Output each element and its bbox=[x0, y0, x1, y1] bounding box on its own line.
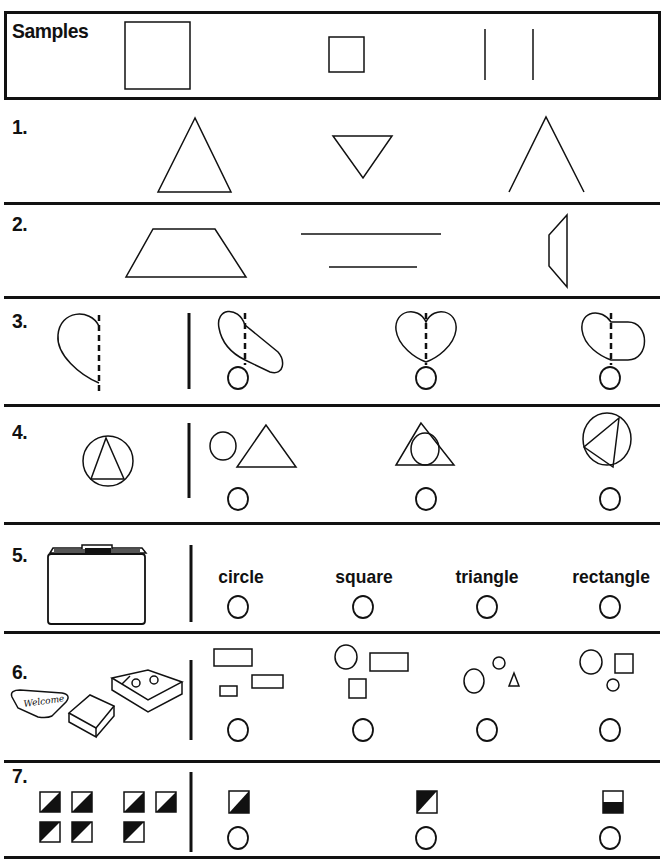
q4-answer-bubble-2[interactable] bbox=[416, 488, 436, 510]
q6-answer-bubble-4[interactable] bbox=[600, 719, 620, 741]
q6-book-icon bbox=[69, 695, 114, 737]
q5-answer-bubble-square[interactable] bbox=[353, 596, 373, 618]
q6-answer-bubble-2[interactable] bbox=[353, 719, 373, 741]
q3-answer-bubble-3[interactable] bbox=[600, 367, 620, 389]
q6-photo-box-icon bbox=[112, 670, 182, 712]
q4-choice-circle-beside-triangle-icon bbox=[210, 425, 296, 467]
q2-vertical-trapezoid-icon bbox=[549, 215, 567, 287]
q6-answer-bubble-3[interactable] bbox=[477, 719, 497, 741]
q7-answer-bubble-1[interactable] bbox=[228, 827, 248, 849]
q3-choice-rounded-rect-icon bbox=[582, 313, 645, 365]
sample-small-square-icon bbox=[329, 37, 364, 72]
q3-answer-bubble-1[interactable] bbox=[228, 367, 248, 389]
q4-triangle-in-circle-prompt-icon bbox=[83, 436, 133, 486]
q5-answer-bubble-triangle[interactable] bbox=[477, 596, 497, 618]
q3-choice-heart-icon bbox=[396, 312, 456, 365]
q4-choice-circle-in-triangle-icon bbox=[396, 423, 454, 465]
q3-answer-bubble-2[interactable] bbox=[416, 367, 436, 389]
q1-inverted-triangle-icon bbox=[333, 136, 392, 178]
q4-choice-rotated-triangle-in-circle-icon bbox=[583, 413, 631, 467]
q1-triangle-icon bbox=[158, 118, 231, 192]
sample-large-rectangle-icon bbox=[125, 22, 190, 89]
q5-folder-prompt-icon bbox=[48, 545, 146, 624]
q6-choice-circles-triangle-icon bbox=[464, 657, 519, 693]
q3-choice-oval-icon bbox=[219, 311, 283, 372]
q6-choice-rectangles-icon bbox=[214, 649, 283, 696]
q1-open-angle-icon bbox=[509, 117, 584, 192]
sample-parallel-lines-icon bbox=[485, 29, 533, 80]
q7-answer-bubble-3[interactable] bbox=[600, 827, 620, 849]
q5-answer-bubble-rectangle[interactable] bbox=[600, 596, 620, 618]
q7-answer-bubble-2[interactable] bbox=[416, 827, 436, 849]
q7-choice-shaded-bottom-half-icon bbox=[603, 791, 623, 813]
q6-welcome-mat-icon: Welcome bbox=[11, 690, 68, 718]
q2-trapezoid-icon bbox=[126, 229, 246, 277]
q7-pattern-prompt-icon bbox=[40, 792, 176, 842]
svg-text:Welcome: Welcome bbox=[23, 693, 65, 709]
q6-choice-circles-square-icon bbox=[580, 650, 633, 691]
q6-choice-circle-rects-icon bbox=[335, 645, 408, 698]
q4-answer-bubble-1[interactable] bbox=[228, 488, 248, 510]
q7-choice-shaded-bottom-right-icon bbox=[229, 791, 249, 813]
q4-answer-bubble-3[interactable] bbox=[600, 488, 620, 510]
q6-answer-bubble-1[interactable] bbox=[228, 719, 248, 741]
q2-parallel-lines-icon bbox=[301, 234, 441, 267]
q3-half-heart-prompt-icon bbox=[58, 314, 99, 393]
q7-choice-shaded-top-left-icon bbox=[417, 791, 437, 813]
worksheet-figures: Welcome bbox=[0, 0, 664, 859]
q5-answer-bubble-circle[interactable] bbox=[228, 596, 248, 618]
